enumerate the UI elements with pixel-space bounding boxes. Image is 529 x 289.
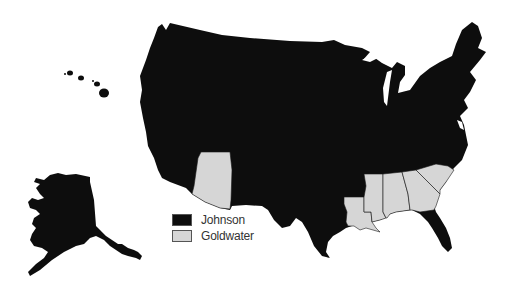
map-legend: Johnson Goldwater — [172, 212, 254, 244]
legend-label-johnson: Johnson — [201, 213, 245, 227]
legend-label-goldwater: Goldwater — [201, 229, 254, 243]
legend-item-johnson: Johnson — [172, 212, 254, 228]
state-arizona-goldwater — [192, 152, 232, 209]
johnson-swatch — [172, 214, 192, 226]
legend-item-goldwater: Goldwater — [172, 228, 254, 244]
goldwater-swatch — [172, 230, 192, 242]
alaska-johnson — [28, 173, 142, 276]
hawaii-johnson — [64, 71, 109, 98]
us-election-map — [0, 0, 529, 289]
